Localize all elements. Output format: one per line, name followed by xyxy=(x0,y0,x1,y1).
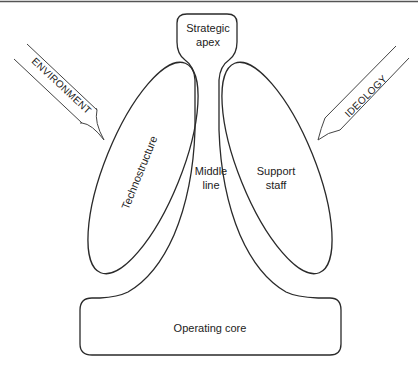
middle-line-label-line1: Middle xyxy=(195,165,227,177)
environment-label: ENVIRONMENT xyxy=(30,55,94,116)
middle-line-label-line2: line xyxy=(202,179,219,191)
middle-line-left-edge xyxy=(100,60,195,298)
support-staff-label-line1: Support xyxy=(257,165,296,177)
organization-diagram: ENVIRONMENT IDEOLOGY Strategic apex Midd… xyxy=(0,0,418,367)
support-staff-label-line2: staff xyxy=(266,179,288,191)
operating-core-label: Operating core xyxy=(174,322,247,334)
strategic-apex-label-line2: apex xyxy=(196,36,220,48)
technostructure-label: Technostructure xyxy=(119,134,159,211)
environment-arrow xyxy=(14,44,104,140)
strategic-apex-label-line1: Strategic xyxy=(186,22,230,34)
diagram-canvas: ENVIRONMENT IDEOLOGY Strategic apex Midd… xyxy=(0,0,418,367)
ideology-label: IDEOLOGY xyxy=(343,73,389,119)
